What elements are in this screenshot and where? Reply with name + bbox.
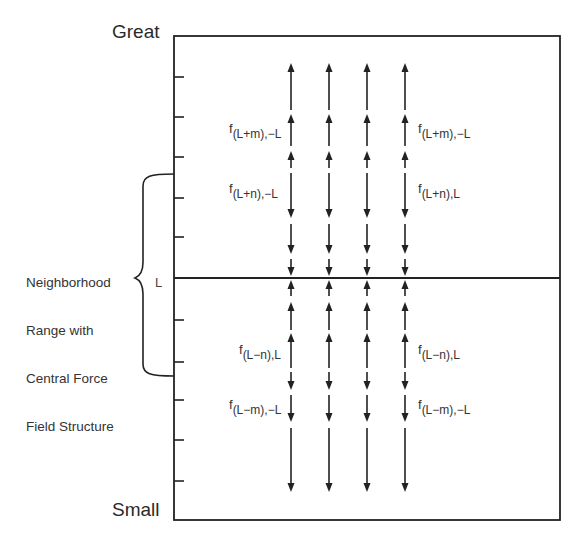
force-label-left: f(L+m),−L	[229, 122, 281, 140]
arrow-up-icon	[326, 280, 333, 289]
force-label-left: f(L+n),−L	[229, 182, 278, 200]
arrow-up-icon	[364, 151, 371, 160]
arrow-up-icon	[402, 280, 409, 289]
arrow-down-icon	[288, 209, 295, 218]
arrow-down-icon	[402, 483, 409, 492]
arrow-up-icon	[364, 302, 371, 311]
arrow-down-icon	[326, 209, 333, 218]
arrow-down-icon	[364, 245, 371, 254]
arrow-up-icon	[402, 151, 409, 160]
force-label-right: f(L+m),−L	[418, 122, 470, 140]
arrow-down-icon	[288, 267, 295, 276]
force-label-right: f(L−m),−L	[418, 398, 470, 416]
arrow-down-icon	[364, 267, 371, 276]
range-label-line: Central Force	[26, 371, 114, 387]
force-label-right: f(L+n),L	[418, 182, 460, 200]
arrow-down-icon	[364, 413, 371, 422]
arrow-up-icon	[326, 114, 333, 123]
force-label-left: f(L−n),L	[239, 343, 281, 361]
arrow-down-icon	[402, 245, 409, 254]
arrow-up-icon	[288, 280, 295, 289]
arrow-down-icon	[326, 267, 333, 276]
arrow-up-icon	[364, 280, 371, 289]
axis-ticks	[174, 77, 184, 481]
arrow-down-icon	[364, 381, 371, 390]
arrow-up-icon	[288, 151, 295, 160]
arrow-up-icon	[288, 333, 295, 342]
arrow-up-icon	[326, 333, 333, 342]
range-label-line: Range with	[26, 323, 114, 339]
arrow-down-icon	[402, 209, 409, 218]
arrow-up-icon	[326, 151, 333, 160]
arrow-up-icon	[364, 63, 371, 72]
arrow-down-icon	[288, 245, 295, 254]
arrow-up-icon	[364, 333, 371, 342]
axis-bottom-label: Small	[112, 500, 160, 519]
center-level-label: L	[155, 275, 162, 290]
arrow-up-icon	[402, 302, 409, 311]
arrow-down-icon	[288, 381, 295, 390]
arrow-up-icon	[288, 63, 295, 72]
arrow-down-icon	[364, 483, 371, 492]
arrow-down-icon	[326, 245, 333, 254]
arrow-up-icon	[402, 333, 409, 342]
axis-top-label: Great	[112, 22, 160, 41]
arrow-down-icon	[402, 267, 409, 276]
arrow-down-icon	[288, 483, 295, 492]
force-label-left: f(L−m),−L	[229, 398, 281, 416]
arrow-down-icon	[326, 381, 333, 390]
arrow-down-icon	[364, 209, 371, 218]
arrow-up-icon	[364, 114, 371, 123]
arrow-up-icon	[326, 63, 333, 72]
arrow-up-icon	[402, 63, 409, 72]
arrow-up-icon	[402, 114, 409, 123]
arrow-down-icon	[326, 413, 333, 422]
force-label-right: f(L−n),L	[418, 343, 460, 361]
arrow-up-icon	[326, 302, 333, 311]
arrow-down-icon	[326, 483, 333, 492]
range-label-line: Neighborhood	[26, 275, 114, 291]
arrow-up-icon	[288, 114, 295, 123]
arrow-down-icon	[402, 413, 409, 422]
arrow-down-icon	[288, 413, 295, 422]
neighborhood-range-label: Neighborhood Range with Central Force Fi…	[26, 243, 114, 451]
arrow-down-icon	[402, 381, 409, 390]
range-label-line: Field Structure	[26, 419, 114, 435]
arrow-up-icon	[288, 302, 295, 311]
